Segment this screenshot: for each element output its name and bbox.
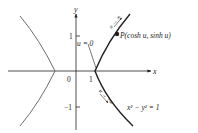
u-zero-label: u = 0 (77, 39, 94, 48)
point-p-marker (115, 32, 119, 36)
y-tick-neg-label: −1 (64, 103, 72, 112)
y-tick-pos-label: 1 (69, 32, 73, 41)
x-axis-label: x (152, 67, 157, 76)
origin-label: 0 (67, 75, 71, 84)
equation-label: x² − y² = 1 (126, 103, 160, 112)
svg-text:u → −∞: u → −∞ (98, 88, 115, 106)
y-axis-label: y (73, 5, 78, 14)
x-tick-1-label: 1 (89, 75, 93, 84)
point-p-label: P(cosh u, sinh u) (119, 31, 171, 40)
arrow-down-annotation: u → −∞ (98, 88, 115, 106)
hyperbola-diagram: u → ∞ u → −∞ y x 0 1 1 −1 u = 0 P(cosh u… (0, 0, 198, 133)
